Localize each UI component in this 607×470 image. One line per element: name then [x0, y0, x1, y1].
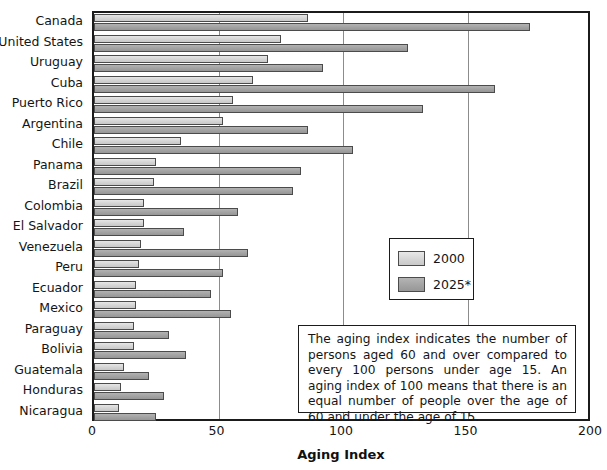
y-axis-label-argentina: Argentina	[22, 117, 83, 130]
bar	[94, 269, 223, 277]
bar	[94, 413, 156, 421]
y-axis-label-guatemala: Guatemala	[14, 363, 83, 376]
legend-item-2000: 2000	[398, 249, 465, 267]
bar	[94, 383, 121, 391]
chart-legend: 20002025*	[389, 238, 474, 300]
y-axis-label-paraguay: Paraguay	[25, 322, 83, 335]
y-axis-label-cuba: Cuba	[51, 76, 83, 89]
y-axis-label-peru: Peru	[55, 260, 83, 273]
x-tick-200: 200	[578, 423, 602, 438]
bar	[94, 199, 144, 207]
bar-group	[94, 198, 588, 219]
bar	[94, 249, 248, 257]
bar	[94, 85, 495, 93]
bar	[94, 35, 281, 43]
y-axis-label-uruguay: Uruguay	[30, 55, 83, 68]
bar	[94, 137, 181, 145]
legend-label: 2000	[433, 251, 465, 266]
bar-group	[94, 95, 588, 116]
bar-group	[94, 177, 588, 198]
legend-item-2025star: 2025*	[398, 275, 471, 293]
bar-group	[94, 280, 588, 301]
bar	[94, 167, 301, 175]
y-axis-label-nicaragua: Nicaragua	[19, 404, 83, 417]
annotation-note-box: The aging index indicates the number of …	[298, 325, 576, 413]
y-axis-label-canada: Canada	[35, 14, 83, 27]
y-axis-label-el-salvador: El Salvador	[13, 219, 83, 232]
bar	[94, 178, 154, 186]
bar	[94, 96, 233, 104]
x-axis-title: Aging Index	[92, 447, 590, 462]
bar	[94, 158, 156, 166]
y-axis-label-venezuela: Venezuela	[19, 240, 83, 253]
bar-group	[94, 239, 588, 260]
x-axis-tick-labels: 050100150200	[92, 423, 590, 443]
y-axis-label-ecuador: Ecuador	[32, 281, 83, 294]
bar	[94, 146, 353, 154]
bar	[94, 331, 169, 339]
y-axis-label-panama: Panama	[33, 158, 83, 171]
bar	[94, 392, 164, 400]
annotation-note-text: The aging index indicates the number of …	[308, 332, 567, 426]
bar	[94, 44, 408, 52]
y-axis-category-labels: CanadaUnited StatesUruguayCubaPuerto Ric…	[0, 11, 88, 421]
y-axis-label-colombia: Colombia	[24, 199, 83, 212]
aging-index-bar-chart: Aging CanadaUnited StatesUruguayCubaPuer…	[0, 0, 607, 470]
bar	[94, 342, 134, 350]
y-axis-label-mexico: Mexico	[39, 301, 83, 314]
bar-group	[94, 75, 588, 96]
y-axis-label-chile: Chile	[52, 137, 83, 150]
y-axis-label-honduras: Honduras	[23, 383, 83, 396]
bar-group	[94, 218, 588, 239]
bar	[94, 105, 423, 113]
bar	[94, 372, 149, 380]
bar	[94, 404, 119, 412]
legend-swatch-icon	[398, 251, 425, 266]
bar	[94, 290, 211, 298]
x-tick-50: 50	[209, 423, 225, 438]
bar	[94, 64, 323, 72]
bar-group	[94, 54, 588, 75]
bar-group	[94, 157, 588, 178]
bar	[94, 23, 530, 31]
bar-group	[94, 259, 588, 280]
bar	[94, 219, 144, 227]
bar	[94, 351, 186, 359]
bar	[94, 310, 231, 318]
bar	[94, 281, 136, 289]
bar-group	[94, 136, 588, 157]
legend-swatch-icon	[398, 277, 425, 292]
bar-group	[94, 34, 588, 55]
y-axis-label-puerto-rico: Puerto Rico	[12, 96, 83, 109]
bar	[94, 76, 253, 84]
bar	[94, 55, 268, 63]
legend-label: 2025*	[433, 277, 471, 292]
bar	[94, 187, 293, 195]
bar	[94, 260, 139, 268]
bar	[94, 228, 184, 236]
y-axis-label-brazil: Brazil	[48, 178, 83, 191]
bar	[94, 363, 124, 371]
bar	[94, 301, 136, 309]
y-axis-label-bolivia: Bolivia	[41, 342, 83, 355]
bar	[94, 117, 223, 125]
bar-group	[94, 13, 588, 34]
bar	[94, 126, 308, 134]
bar-group	[94, 300, 588, 321]
bar	[94, 322, 134, 330]
y-axis-label-united-states: United States	[0, 35, 83, 48]
bar-group	[94, 116, 588, 137]
x-tick-0: 0	[88, 423, 96, 438]
bar	[94, 14, 308, 22]
bar	[94, 240, 141, 248]
bar	[94, 208, 238, 216]
